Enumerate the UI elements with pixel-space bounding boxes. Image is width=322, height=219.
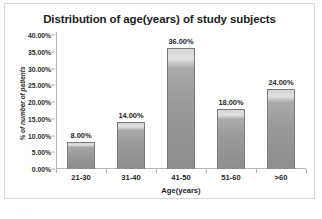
- bar-value-label: 8.00%: [51, 131, 111, 140]
- y-axis-tick-label: 40.00%: [9, 32, 51, 39]
- x-axis-tick-labels: 21-3031-4041-5051-60>60: [56, 173, 306, 182]
- bar->60[interactable]: [267, 89, 295, 169]
- chart-title: Distribution of age(years) of study subj…: [5, 13, 314, 25]
- x-axis-tick-label: 51-60: [206, 173, 256, 182]
- y-axis-tick-label: 10.00%: [9, 132, 51, 139]
- x-axis-tick-mark: [306, 169, 307, 173]
- y-axis-tick-mark: [51, 85, 55, 86]
- bar-slot: 18.00%: [206, 35, 256, 169]
- bar-value-label: 18.00%: [201, 98, 261, 107]
- y-axis-tick-label: 5.00%: [9, 149, 51, 156]
- x-axis-tick-label: 31-40: [106, 173, 156, 182]
- x-axis-title: Age(years): [56, 186, 306, 195]
- plot-area: 0.00%5.00%10.00%15.00%20.00%25.00%30.00%…: [56, 35, 306, 169]
- y-axis-tick-label: 0.00%: [9, 166, 51, 173]
- y-axis-tick-label: 30.00%: [9, 65, 51, 72]
- bar-value-label: 14.00%: [101, 111, 161, 120]
- y-axis-tick-label: 15.00%: [9, 115, 51, 122]
- bar-31-40[interactable]: [117, 122, 145, 169]
- y-axis-tick-mark: [51, 102, 55, 103]
- chart-container: Distribution of age(years) of study subj…: [4, 3, 315, 199]
- x-axis-tick-label: >60: [256, 173, 306, 182]
- bar-21-30[interactable]: [67, 142, 95, 169]
- y-axis-tick-labels: 0.00%5.00%10.00%15.00%20.00%25.00%30.00%…: [9, 35, 51, 169]
- bar-slot: 24.00%: [256, 35, 306, 169]
- bar-value-label: 36.00%: [151, 37, 211, 46]
- y-axis-tick-mark: [51, 51, 55, 52]
- x-axis-tick-label: 41-50: [156, 173, 206, 182]
- bar-41-50[interactable]: [167, 48, 195, 169]
- y-axis-tick-label: 20.00%: [9, 99, 51, 106]
- bar-value-label: 24.00%: [251, 78, 311, 87]
- y-axis-tick-label: 35.00%: [9, 48, 51, 55]
- y-axis-tick-label: 25.00%: [9, 82, 51, 89]
- caption-artifact: ....: [22, 205, 292, 212]
- y-axis-tick-mark: [51, 68, 55, 69]
- y-axis-tick-mark: [51, 169, 55, 170]
- y-axis-tick-mark: [51, 118, 55, 119]
- y-axis-tick-mark: [51, 35, 55, 36]
- bar-slot: 14.00%: [106, 35, 156, 169]
- bar-series: 8.00%14.00%36.00%18.00%24.00%: [56, 35, 306, 169]
- y-axis-tick-mark: [51, 152, 55, 153]
- bar-51-60[interactable]: [217, 109, 245, 169]
- x-axis-tick-label: 21-30: [56, 173, 106, 182]
- bar-slot: 36.00%: [156, 35, 206, 169]
- bar-slot: 8.00%: [56, 35, 106, 169]
